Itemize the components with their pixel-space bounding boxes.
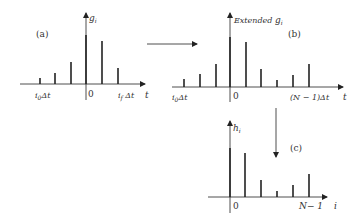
panel-b-origin-label: 0 xyxy=(233,91,239,101)
panel-b: Extended gi (b) 0 i0Δt (N − 1)Δt t xyxy=(172,13,347,103)
panel-a-label: (a) xyxy=(36,29,48,39)
panel-a-right-tick-label: if Δt xyxy=(118,91,135,102)
panel-a-stems xyxy=(40,35,118,84)
panel-a-y-label: gi xyxy=(89,13,97,24)
panel-b-x-label: t xyxy=(343,92,347,102)
panel-c-y-label: hi xyxy=(233,123,241,134)
panel-c-stems xyxy=(230,148,309,197)
panel-b-y-label: Extended gi xyxy=(233,15,283,26)
panel-c-right-tick-label: N− 1 xyxy=(298,201,323,211)
panel-b-left-tick-label: i0Δt xyxy=(172,93,188,103)
panel-b-stems xyxy=(184,37,309,87)
panel-a-origin-label: 0 xyxy=(88,89,94,99)
panel-a-x-label: t xyxy=(145,90,149,100)
panel-b-right-tick-label: (N − 1)Δt xyxy=(290,93,330,102)
panel-c-label: (c) xyxy=(290,143,302,153)
panel-a: (a) gi 0 i0Δt if Δt t xyxy=(20,13,149,102)
panel-c-origin-label: 0 xyxy=(233,201,239,211)
signal-extension-diagram: (a) gi 0 i0Δt if Δt t Extended gi (b) 0 … xyxy=(0,0,359,221)
panel-c: hi (c) 0 N− 1 i xyxy=(208,121,337,213)
panel-b-label: (b) xyxy=(288,29,301,39)
panel-a-left-tick-label: i0Δt xyxy=(35,91,51,101)
panel-c-x-label: i xyxy=(334,201,337,211)
